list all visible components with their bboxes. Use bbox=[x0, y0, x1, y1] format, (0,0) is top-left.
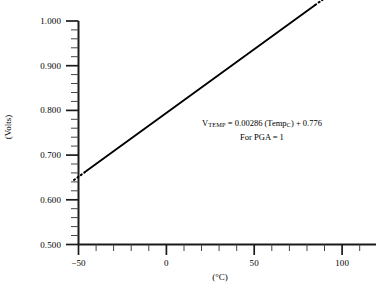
y-axis-title: (Volts) bbox=[3, 97, 13, 157]
y-tick-label-0800: 0.800 bbox=[21, 105, 61, 115]
y-tick-label-0700: 0.700 bbox=[21, 150, 61, 160]
series-main-line bbox=[86, 5, 315, 171]
x-major-ticks bbox=[79, 245, 343, 256]
x-axis-title: (°C) bbox=[190, 272, 250, 282]
annotation-equation-suffix: ) + 0.776 bbox=[291, 118, 322, 128]
x-tick-label-0: 0 bbox=[146, 258, 186, 268]
y-tick-label-0500: 0.500 bbox=[21, 240, 61, 250]
x-tick-label-minus50: −50 bbox=[59, 258, 99, 268]
y-minor-ticks bbox=[71, 30, 79, 236]
x-tick-label-50: 50 bbox=[234, 258, 274, 268]
y-tick-label-0600: 0.600 bbox=[21, 195, 61, 205]
annotation-equation: VTEMP = 0.00286 (TempC) + 0.776 bbox=[178, 117, 346, 131]
chart-annotation: VTEMP = 0.00286 (TempC) + 0.776 For PGA … bbox=[178, 117, 346, 143]
annotation-v-subscript: TEMP bbox=[208, 121, 226, 128]
annotation-condition: For PGA = 1 bbox=[178, 131, 346, 143]
series-extrapolation-high bbox=[315, 0, 345, 5]
y-tick-label-0900: 0.900 bbox=[21, 61, 61, 71]
y-tick-label-1000: 1.000 bbox=[21, 16, 61, 26]
temperature-sensor-chart: 1.000 0.900 0.800 0.700 0.600 0.500 −50 … bbox=[0, 0, 388, 299]
annotation-equation-mid: = 0.00286 (Temp bbox=[226, 118, 287, 128]
y-major-ticks bbox=[66, 21, 79, 245]
x-tick-label-100: 100 bbox=[322, 258, 362, 268]
